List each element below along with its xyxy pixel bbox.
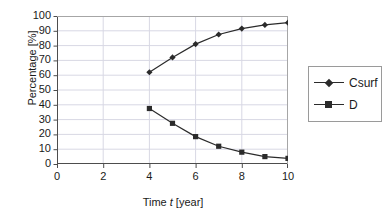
legend-swatch-square-icon [314,98,344,112]
legend-item-d: D [309,95,381,115]
legend-swatch-diamond-icon [314,76,344,90]
legend-item-csurf: Csurf [309,73,381,93]
x-axis-label-suffix: [year] [173,196,204,208]
legend-label-d: D [349,98,358,112]
x-axis-label: Time t [year] [57,196,289,208]
x-tick-label: 2 [88,171,118,182]
chart-figure: Percentage [%] 0102030405060708090100 02… [0,0,392,222]
x-tick-label: 10 [273,171,303,182]
x-tick-label: 4 [134,171,164,182]
x-tick-label: 8 [227,171,257,182]
x-axis-label-prefix: Time [143,196,170,208]
chart-legend: Csurf D [308,66,382,122]
x-tick-label: 0 [42,171,72,182]
legend-label-csurf: Csurf [349,76,378,90]
x-tick-label: 6 [181,171,211,182]
